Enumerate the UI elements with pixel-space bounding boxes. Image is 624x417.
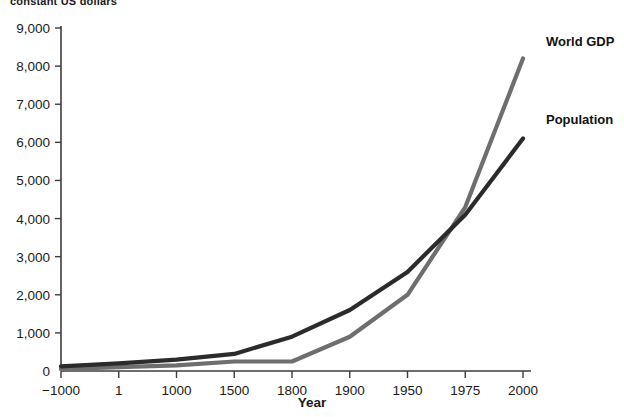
y-tick-label: 2,000 <box>16 288 50 303</box>
chart-canvas: 01,0002,0003,0004,0005,0006,0007,0008,00… <box>0 0 624 417</box>
x-axis-title: Year <box>0 395 624 410</box>
series-line-world-gdp <box>61 59 523 370</box>
data-series-group <box>61 59 523 370</box>
y-tick-label: 5,000 <box>16 173 50 188</box>
x-axis-ticks: −100011000150018001900195019752000 <box>42 371 538 398</box>
y-tick-label: 9,000 <box>16 21 50 36</box>
series-label-population: Population <box>546 112 613 127</box>
y-axis-ticks: 01,0002,0003,0004,0005,0006,0007,0008,00… <box>16 21 61 379</box>
y-tick-label: 3,000 <box>16 250 50 265</box>
y-tick-label: 1,000 <box>16 326 50 341</box>
y-tick-label: 4,000 <box>16 212 50 227</box>
y-tick-label: 7,000 <box>16 97 50 112</box>
series-label-group: World GDPPopulation <box>546 34 615 127</box>
y-tick-label: 8,000 <box>16 59 50 74</box>
series-label-world-gdp: World GDP <box>546 34 615 49</box>
series-line-population <box>61 139 523 367</box>
y-tick-label: 0 <box>42 364 50 379</box>
y-tick-label: 6,000 <box>16 135 50 150</box>
line-chart: constant US dollars 01,0002,0003,0004,00… <box>0 0 624 417</box>
